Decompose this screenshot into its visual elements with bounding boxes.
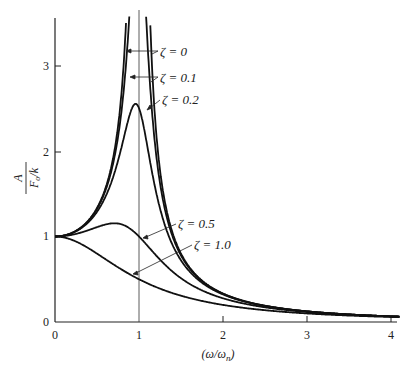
x-tick-labels: 0 1 2 3 4 (52, 328, 394, 342)
chart-canvas: 0 1 2 3 4 0 1 2 3 (ω/ωn) A Fo/k (0, 0, 413, 367)
label-zeta-0.2: ζ = 0.2 (162, 92, 199, 107)
label-zeta-0: ζ = 0 (160, 44, 188, 59)
label-zeta-0.1: ζ = 0.1 (160, 70, 197, 85)
x-axis-label: (ω/ωn) (202, 347, 235, 363)
curve-0.2 (55, 104, 399, 317)
svg-text:Fo/k: Fo/k (27, 167, 42, 189)
y-ticks (55, 66, 61, 236)
svg-text:3: 3 (304, 328, 310, 342)
label-zeta-1.0: ζ = 1.0 (194, 237, 231, 252)
svg-text:0: 0 (52, 328, 58, 342)
annotation-labels: ζ = 0 ζ = 0.1 ζ = 0.2 ζ = 0.5 ζ = 1.0 (160, 44, 231, 252)
curve-0 (55, 23, 126, 237)
svg-text:1: 1 (43, 229, 49, 243)
y-tick-labels: 0 1 2 3 (43, 59, 49, 329)
svg-text:A: A (11, 174, 25, 183)
svg-text:2: 2 (43, 145, 49, 159)
label-zeta-0.5: ζ = 0.5 (178, 216, 215, 231)
response-curves (55, 17, 399, 318)
svg-text:0: 0 (43, 315, 49, 329)
y-axis-label: A Fo/k (11, 162, 42, 194)
svg-text:3: 3 (43, 59, 49, 73)
curve-0.1 (146, 17, 399, 317)
svg-text:1: 1 (136, 328, 142, 342)
svg-text:4: 4 (388, 328, 394, 342)
svg-text:2: 2 (220, 328, 226, 342)
